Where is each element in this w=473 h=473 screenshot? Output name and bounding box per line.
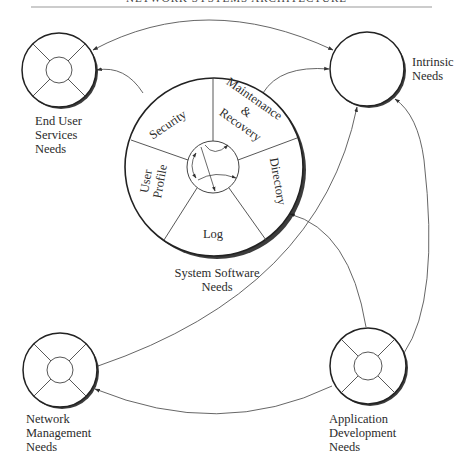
node-network-management bbox=[23, 333, 99, 409]
diagram-canvas: Security Maintenance & Recovery Director… bbox=[0, 0, 473, 473]
label-line: Network bbox=[26, 412, 91, 426]
system-software-circle: Security Maintenance & Recovery Director… bbox=[125, 74, 306, 259]
label-line: Development bbox=[329, 426, 396, 440]
label-end-user-services: End User Services Needs bbox=[35, 114, 82, 156]
label-line: System Software bbox=[162, 266, 272, 280]
label-intrinsic: Intrinsic Needs bbox=[412, 55, 454, 83]
label-network-management: Network Management Needs bbox=[26, 412, 91, 454]
edge-central-intrinsic bbox=[263, 69, 329, 94]
node-end-user-services bbox=[22, 33, 98, 109]
node-application-development bbox=[330, 328, 408, 406]
label-line: Intrinsic bbox=[412, 55, 454, 69]
label-line: Needs bbox=[412, 69, 454, 83]
edge-appdev-network bbox=[95, 386, 332, 414]
edge-appdev-intrinsic bbox=[395, 99, 429, 353]
label-system-software: System Software Needs bbox=[162, 266, 272, 294]
label-line: Application bbox=[329, 412, 396, 426]
label-line: Needs bbox=[329, 440, 396, 454]
label-line: Needs bbox=[162, 280, 272, 294]
label-line: Services bbox=[35, 128, 82, 142]
label-line: Management bbox=[26, 426, 91, 440]
edge-intrinsic-enduser bbox=[93, 20, 333, 50]
label-line: Needs bbox=[26, 440, 91, 454]
label-line: Needs bbox=[35, 142, 82, 156]
label-application-development: Application Development Needs bbox=[329, 412, 396, 454]
node-intrinsic bbox=[330, 32, 406, 108]
edge-central-enduser bbox=[97, 69, 143, 93]
label-line: End User bbox=[35, 114, 82, 128]
segment-log: Log bbox=[203, 227, 224, 241]
